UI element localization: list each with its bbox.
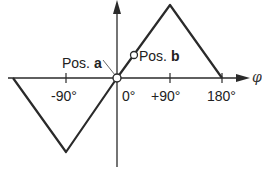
- pos-a-leader-line: [103, 60, 115, 75]
- tick-label-0: 0°: [122, 88, 135, 104]
- x-axis-symbol-phi: φ: [252, 69, 262, 85]
- y-axis-arrow-icon: [113, 0, 121, 14]
- pos-a-marker: [113, 74, 121, 82]
- tick-label-plus-90: +90°: [151, 88, 180, 104]
- pos-a-label: Pos. a: [62, 55, 102, 71]
- x-axis-arrow-icon: [236, 74, 250, 82]
- pos-b-label: Pos. b: [139, 48, 179, 64]
- pos-b-marker: [131, 52, 138, 59]
- tick-label-180: 180°: [207, 88, 236, 104]
- diagram-svg: Pos. a Pos. b -90° 0° +90° 180° φ: [0, 0, 262, 169]
- tick-label-minus-90: -90°: [51, 88, 77, 104]
- triangular-wave-diagram: Pos. a Pos. b -90° 0° +90° 180° φ: [0, 0, 262, 169]
